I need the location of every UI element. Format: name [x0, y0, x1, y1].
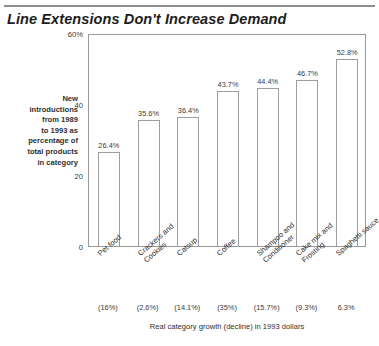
bar-rect: [296, 80, 318, 246]
y-axis-caption-line: percentage of: [0, 136, 78, 147]
bar-value-label: 43.7%: [208, 80, 248, 89]
y-axis-caption-line: total products: [0, 147, 78, 158]
y-axis-caption-line: from 1989: [0, 115, 78, 126]
bar-rect: [336, 59, 358, 246]
bar-1[interactable]: 35.6%: [138, 33, 160, 246]
secondary-axis-value: (9.3%): [284, 303, 328, 312]
secondary-axis-value: (35%): [205, 303, 249, 312]
bar-3[interactable]: 43.7%: [217, 33, 239, 246]
bar-4[interactable]: 44.4%: [257, 33, 279, 246]
bar-rect: [257, 88, 279, 246]
bar-value-label: 46.7%: [287, 69, 327, 78]
y-axis-caption-line: in category: [0, 158, 78, 169]
x-axis-title: Real category growth (decline) in 1993 d…: [88, 322, 366, 331]
bar-value-label: 52.8%: [327, 48, 367, 57]
bar-0[interactable]: 26.4%: [98, 33, 120, 246]
bar-2[interactable]: 36.4%: [177, 33, 199, 246]
bar-5[interactable]: 46.7%: [296, 33, 318, 246]
y-axis-caption-line: to 1993 as: [0, 126, 78, 137]
bar-rect: [177, 117, 199, 246]
bar-value-label: 26.4%: [89, 141, 129, 150]
bar-value-label: 44.4%: [248, 77, 288, 86]
y-axis-tick-label: 60%: [57, 30, 83, 39]
bar-rect: [217, 91, 239, 246]
bar-value-label: 36.4%: [168, 106, 208, 115]
y-axis-tick-label: 0: [57, 243, 83, 252]
page-title: Line Extensions Don't Increase Demand: [7, 11, 347, 27]
bar-rect: [138, 120, 160, 246]
bar-6[interactable]: 52.8%: [336, 33, 358, 246]
secondary-axis-value: (2.6%): [126, 303, 170, 312]
y-axis-tick-label: 20: [57, 172, 83, 181]
bar-value-label: 35.6%: [129, 109, 169, 118]
y-axis-tick-label: 40: [57, 101, 83, 110]
plot-area: 26.4%35.6%36.4%43.7%44.4%46.7%52.8%: [88, 34, 366, 247]
secondary-axis-value: 6.3%: [324, 303, 368, 312]
secondary-axis-value: (16%): [86, 303, 130, 312]
secondary-axis-value: (15.7%): [245, 303, 289, 312]
secondary-axis-value: (14.1%): [165, 303, 209, 312]
header-divider: [4, 5, 375, 7]
